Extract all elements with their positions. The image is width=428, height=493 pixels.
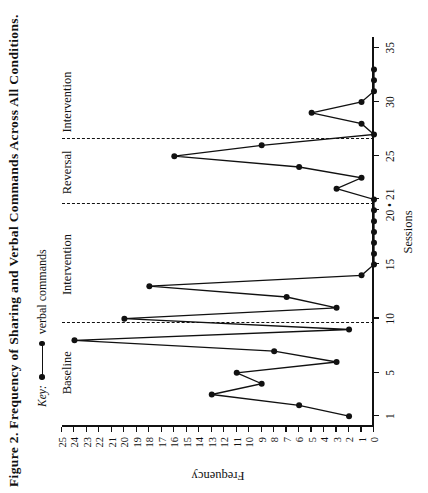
data-point xyxy=(284,294,290,300)
figure-rotation-wrapper: Figure 2. Frequency of Sharing and Verba… xyxy=(0,0,428,493)
y-tick xyxy=(323,427,324,432)
y-tick-label: 11 xyxy=(231,437,242,447)
x-tick-label: 20 • 21 xyxy=(384,189,396,222)
y-tick xyxy=(123,427,124,432)
x-tick xyxy=(374,317,379,318)
x-tick xyxy=(374,415,379,416)
y-tick xyxy=(310,427,311,432)
y-tick xyxy=(261,427,262,432)
x-tick-label: 10 xyxy=(384,313,396,325)
x-tick-label: 5 xyxy=(384,370,396,376)
data-point xyxy=(121,316,127,322)
y-tick-label: 1 xyxy=(356,437,367,442)
data-point xyxy=(359,175,365,181)
data-point xyxy=(334,186,340,192)
data-point xyxy=(234,370,240,376)
data-series-verbal-commands xyxy=(62,37,374,427)
y-tick-label: 16 xyxy=(169,437,180,448)
data-point xyxy=(371,77,377,83)
y-tick-label: 25 xyxy=(57,437,68,448)
x-tick-label: 15 xyxy=(384,259,396,271)
data-point xyxy=(334,359,340,365)
figure-caption: Figure 2. Frequency of Sharing and Verba… xyxy=(6,7,22,487)
y-tick-label: 2 xyxy=(344,437,355,442)
y-tick-label: 20 xyxy=(119,437,130,448)
y-tick xyxy=(86,427,87,432)
y-tick-label: 21 xyxy=(106,437,117,448)
x-tick xyxy=(374,155,379,156)
data-point xyxy=(309,110,315,116)
y-tick-label: 14 xyxy=(194,437,205,448)
data-point xyxy=(359,121,365,127)
data-point xyxy=(359,99,365,105)
y-tick-label: 12 xyxy=(219,437,230,448)
x-tick-label: 35 xyxy=(384,42,396,54)
x-tick xyxy=(374,372,379,373)
y-tick-label: 3 xyxy=(331,437,342,442)
legend-title: Key: xyxy=(36,385,48,407)
legend-series-label: verbal commands xyxy=(35,249,50,334)
x-axis-title: Sessions xyxy=(401,210,416,253)
data-point xyxy=(296,164,302,170)
y-tick xyxy=(236,427,237,432)
y-tick-label: 5 xyxy=(306,437,317,442)
y-tick xyxy=(273,427,274,432)
data-point xyxy=(346,413,352,419)
y-tick-label: 23 xyxy=(81,437,92,448)
y-axis-title: Frequency xyxy=(192,468,245,483)
data-point xyxy=(371,218,377,224)
y-tick xyxy=(136,427,137,432)
y-tick xyxy=(186,427,187,432)
y-tick-label: 10 xyxy=(244,437,255,448)
y-tick-label: 0 xyxy=(369,437,380,442)
y-tick xyxy=(298,427,299,432)
y-tick xyxy=(198,427,199,432)
y-tick-label: 6 xyxy=(294,437,305,442)
y-tick-label: 19 xyxy=(131,437,142,448)
data-point xyxy=(296,402,302,408)
figure-panel: Figure 2. Frequency of Sharing and Verba… xyxy=(0,0,428,493)
data-line xyxy=(74,70,374,417)
y-tick-label: 8 xyxy=(269,437,280,442)
y-tick-label: 7 xyxy=(281,437,292,442)
data-point xyxy=(171,153,177,159)
data-point xyxy=(346,327,352,333)
data-point xyxy=(371,207,377,213)
data-point xyxy=(371,88,377,94)
y-tick-label: 17 xyxy=(156,437,167,448)
data-point xyxy=(146,283,152,289)
data-point xyxy=(371,229,377,235)
data-point xyxy=(259,142,265,148)
data-point xyxy=(271,348,277,354)
y-tick xyxy=(335,427,336,432)
data-point xyxy=(371,262,377,268)
legend: Key: verbal commands xyxy=(34,249,50,407)
y-tick-label: 15 xyxy=(181,437,192,448)
data-point xyxy=(371,132,377,138)
y-tick-label: 24 xyxy=(69,437,80,448)
y-tick xyxy=(161,427,162,432)
y-tick xyxy=(148,427,149,432)
y-tick xyxy=(373,427,374,432)
data-point xyxy=(209,392,215,398)
y-tick xyxy=(98,427,99,432)
data-point xyxy=(371,197,377,203)
y-tick xyxy=(285,427,286,432)
data-point xyxy=(359,272,365,278)
x-tick xyxy=(374,101,379,102)
x-tick-label: 30 xyxy=(384,96,396,108)
data-point xyxy=(334,305,340,311)
data-point xyxy=(71,337,77,343)
data-point xyxy=(259,381,265,387)
y-tick-label: 22 xyxy=(94,437,105,448)
y-tick xyxy=(348,427,349,432)
data-point xyxy=(371,251,377,257)
y-tick-label: 9 xyxy=(256,437,267,442)
x-tick xyxy=(374,47,379,48)
y-tick xyxy=(111,427,112,432)
y-tick-label: 18 xyxy=(144,437,155,448)
x-tick-label: 1 xyxy=(384,413,396,419)
y-tick xyxy=(173,427,174,432)
y-tick xyxy=(211,427,212,432)
y-tick-label: 13 xyxy=(206,437,217,448)
